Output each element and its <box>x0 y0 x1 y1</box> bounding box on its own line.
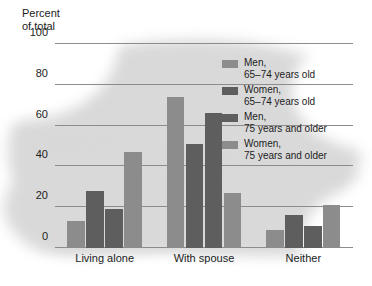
legend-label: Women, 75 years and older <box>244 138 327 162</box>
y-axis-tick-label: 20 <box>36 189 48 201</box>
bar <box>167 97 185 248</box>
bar <box>186 144 204 248</box>
legend-swatch <box>222 141 238 149</box>
x-axis-label: With spouse <box>174 252 235 264</box>
bar <box>304 226 322 248</box>
bar <box>323 205 341 248</box>
legend-item: Men, 65–74 years old <box>222 57 327 81</box>
bar <box>105 209 123 248</box>
bar <box>124 152 142 248</box>
legend-label: Men, 65–74 years old <box>244 57 315 81</box>
y-axis-tick-label: 60 <box>36 108 48 120</box>
x-axis-labels: Living aloneWith spouseNeither <box>55 252 353 270</box>
y-axis-tick-label: 40 <box>36 148 48 160</box>
legend-item: Women, 65–74 years old <box>222 84 327 108</box>
legend-label: Men, 75 years and older <box>244 111 327 135</box>
legend-item: Women, 75 years and older <box>222 138 327 162</box>
bar <box>285 215 303 248</box>
legend-item: Men, 75 years and older <box>222 111 327 135</box>
legend-label: Women, 65–74 years old <box>244 84 315 108</box>
legend-swatch <box>222 87 238 95</box>
bar-chart: Percent of total 020406080100 Living alo… <box>0 0 372 286</box>
bar-group <box>55 44 154 248</box>
y-axis-tick-label: 0 <box>42 230 48 242</box>
y-axis-tick-label: 80 <box>36 67 48 79</box>
legend-swatch <box>222 114 238 122</box>
bar <box>205 113 223 248</box>
x-axis-label: Living alone <box>75 252 134 264</box>
bar <box>67 221 85 248</box>
bar <box>86 191 104 248</box>
x-axis-label: Neither <box>286 252 321 264</box>
y-axis-tick-label: 100 <box>30 26 48 38</box>
legend-swatch <box>222 60 238 68</box>
chart-legend: Men, 65–74 years oldWomen, 65–74 years o… <box>222 57 327 165</box>
bar <box>266 230 284 248</box>
bar <box>224 193 242 248</box>
